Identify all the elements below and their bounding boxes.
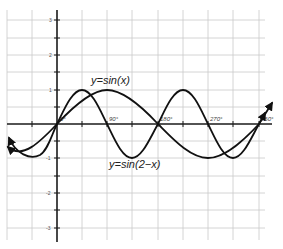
y-tick-3: 3 [49,17,52,23]
y-tick-neg1: -1 [46,155,51,161]
y-tick-neg3: -3 [46,225,51,231]
vertical-grid-lines [7,10,259,240]
label-sin-2-minus-x: y=sin(2−x) [108,158,161,170]
label-sin-x: y=sin(x) [90,74,130,86]
x-tick-labels: 0° 90° 180° 270° 360° [60,116,274,122]
y-tick-neg2: -2 [46,190,51,196]
x-tick-270: 270° [209,116,223,122]
axes [7,10,272,242]
x-tick-90: 90° [109,116,119,122]
y-tick-1: 1 [49,87,52,93]
trig-graph: 3 2 1 -1 -2 -3 0° 90° 180° 270° 360° y=s… [0,0,283,249]
grid [7,10,265,240]
y-tick-2: 2 [49,52,52,58]
